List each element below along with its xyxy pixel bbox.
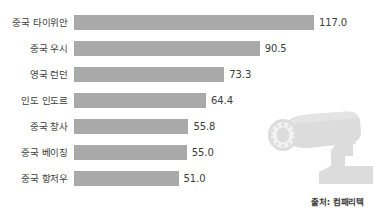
- table-row: 영국 런던 73.3: [0, 61, 373, 87]
- bar-fill: [74, 171, 179, 186]
- bar-label: 영국 런던: [0, 69, 74, 80]
- bar-value: 55.8: [188, 121, 215, 132]
- bar-label: 인도 인도르: [0, 95, 74, 106]
- bar-label: 중국 창사: [0, 121, 74, 132]
- table-row: 인도 인도르 64.4: [0, 87, 373, 113]
- bar-value: 73.3: [224, 69, 251, 80]
- bar-track: 55.0: [74, 139, 373, 165]
- bar-fill: [74, 41, 260, 56]
- bar-fill: [74, 67, 224, 82]
- bar-fill: [74, 93, 206, 108]
- bar-label: 중국 항저우: [0, 173, 74, 184]
- table-row: 중국 베이징 55.0: [0, 139, 373, 165]
- bar-rows: 중국 타이위안 117.0 중국 우시 90.5 영국 런던 73.3 인도 인…: [0, 9, 373, 191]
- bar-track: 55.8: [74, 113, 373, 139]
- bar-label: 중국 우시: [0, 43, 74, 54]
- bar-value: 90.5: [260, 43, 287, 54]
- bar-value: 64.4: [206, 95, 233, 106]
- bar-fill: [74, 145, 187, 160]
- bar-fill: [74, 119, 188, 134]
- bar-value: 117.0: [314, 17, 347, 28]
- bar-label: 중국 베이징: [0, 147, 74, 158]
- bar-value: 51.0: [179, 173, 206, 184]
- bar-label: 중국 타이위안: [0, 17, 74, 28]
- bar-track: 90.5: [74, 35, 373, 61]
- bar-track: 73.3: [74, 61, 373, 87]
- table-row: 중국 타이위안 117.0: [0, 9, 373, 35]
- bar-track: 64.4: [74, 87, 373, 113]
- bar-fill: [74, 15, 314, 30]
- source-credit: 출처: 컴패리텍: [311, 197, 364, 207]
- bar-value: 55.0: [187, 147, 214, 158]
- table-row: 중국 창사 55.8: [0, 113, 373, 139]
- bar-track: 117.0: [74, 9, 373, 35]
- table-row: 중국 우시 90.5: [0, 35, 373, 61]
- bar-chart: 중국 타이위안 117.0 중국 우시 90.5 영국 런던 73.3 인도 인…: [0, 0, 373, 214]
- table-row: 중국 항저우 51.0: [0, 165, 373, 191]
- bar-track: 51.0: [74, 165, 373, 191]
